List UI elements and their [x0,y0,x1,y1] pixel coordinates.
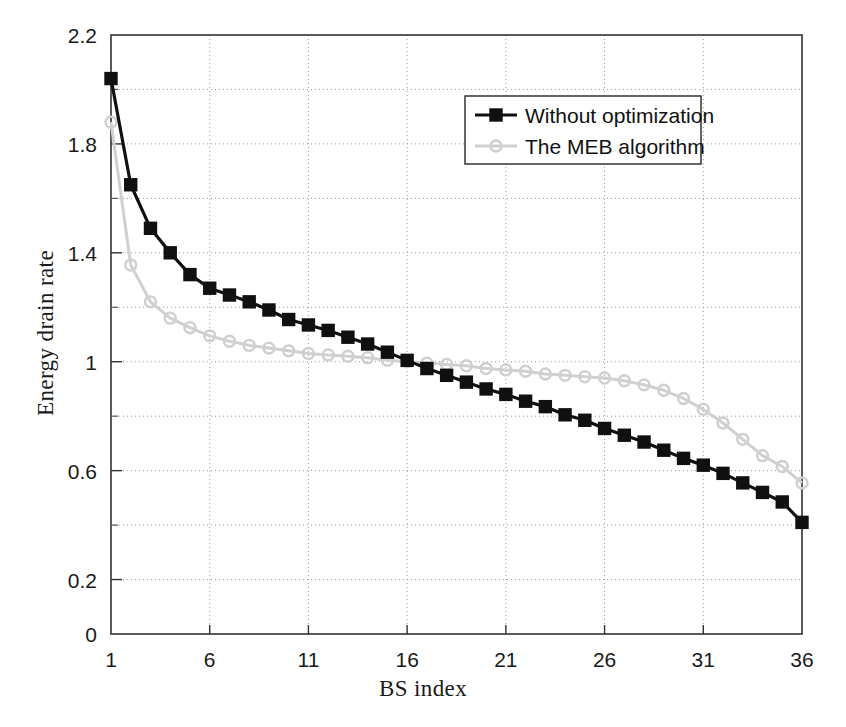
legend-label: The MEB algorithm [525,135,705,158]
data-point-marker [639,437,650,448]
data-point-marker [579,415,590,426]
data-point-marker [362,339,373,350]
data-point-marker [165,247,176,258]
x-tick-label: 6 [204,648,216,671]
data-point-marker [441,370,452,381]
data-point-marker [125,179,136,190]
data-point-marker [461,377,472,388]
data-point-marker [540,401,551,412]
data-point-marker [698,460,709,471]
data-point-marker [481,384,492,395]
chart-figure: Energy drain rate BS index 1611162126313… [0,0,846,727]
data-point-marker [520,396,531,407]
y-tick-label: 1.8 [68,133,97,156]
x-tick-label: 1 [105,648,117,671]
data-point-marker [106,73,117,84]
x-tick-label: 11 [298,648,320,671]
x-tick-label: 16 [395,648,418,671]
legend-label: Without optimization [525,104,714,127]
data-point-marker [619,430,630,441]
data-point-marker [737,477,748,488]
data-point-marker [303,320,314,331]
series-meb-algorithm [106,117,808,489]
data-point-marker [204,283,215,294]
legend-sample-marker [491,110,502,121]
data-point-marker [500,389,511,400]
data-point-marker [244,296,255,307]
x-tick-label: 21 [494,648,517,671]
data-point-marker [421,363,432,374]
series-line [111,122,802,483]
data-point-marker [599,423,610,434]
x-tick-label: 36 [790,648,813,671]
data-point-marker [185,269,196,280]
data-point-marker [382,347,393,358]
data-point-marker [264,305,275,316]
x-tick-label: 31 [692,648,715,671]
y-tick-label: 0 [85,623,97,646]
data-point-marker [718,468,729,479]
data-point-marker [797,517,808,528]
y-tick-label: 2.2 [68,24,97,47]
y-tick-label: 1 [85,351,97,374]
data-point-marker [678,453,689,464]
data-point-marker [658,445,669,456]
data-point-marker [283,314,294,325]
data-point-marker [343,332,354,343]
data-point-marker [402,355,413,366]
y-tick-label: 1.4 [68,242,98,265]
data-point-marker [145,223,156,234]
y-tick-label: 0.2 [68,569,97,592]
data-point-marker [757,487,768,498]
plot-area: 1611162126313600.20.611.41.82.2 Without … [0,0,846,727]
y-tick-label: 0.6 [68,460,97,483]
data-point-marker [777,497,788,508]
data-point-marker [224,290,235,301]
data-point-marker [560,409,571,420]
data-point-marker [323,325,334,336]
x-tick-label: 26 [593,648,616,671]
legend: Without optimizationThe MEB algorithm [465,96,714,164]
